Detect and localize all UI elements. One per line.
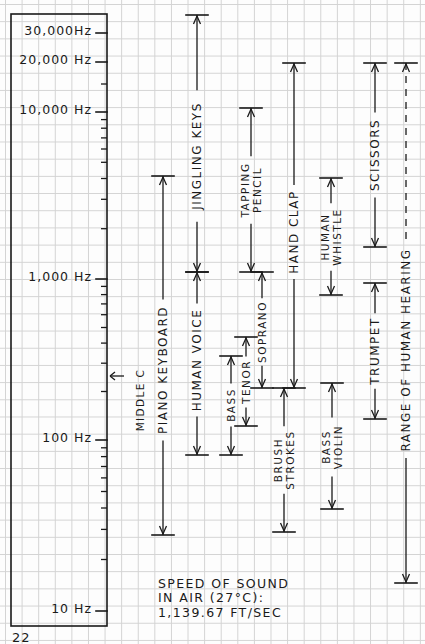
range-human-voice: HUMAN VOICE xyxy=(186,272,208,455)
range-label: STROKES xyxy=(284,430,296,489)
axis-label: 10 Hz xyxy=(51,601,92,616)
range-human-whistle: HUMANWHISTLE xyxy=(319,178,343,295)
axis-labels: 30,000Hz20,000 Hz10,000 Hz1,000 Hz100 Hz… xyxy=(19,23,107,616)
range-label: PIANO KEYBOARD xyxy=(156,306,170,434)
range-hand-clap: HAND CLAP xyxy=(283,63,305,388)
axis-label: 1,000 Hz xyxy=(28,269,92,284)
range-range-of-human-hearing: RANGE OF HUMAN HEARING xyxy=(395,63,417,583)
axis-label: 100 Hz xyxy=(42,430,92,445)
range-label: BASS xyxy=(225,388,237,422)
axis-label: 20,000 Hz xyxy=(19,52,92,67)
range-trumpet: TRUMPET xyxy=(364,283,386,419)
range-label: TRUMPET xyxy=(368,317,382,385)
range-label: HAND CLAP xyxy=(287,190,301,274)
range-label: HUMAN xyxy=(319,213,331,260)
range-label: WHISTLE xyxy=(331,208,343,265)
range-label: SCISSORS xyxy=(368,119,382,191)
range-soprano: SOPRANO xyxy=(251,272,273,388)
range-label: BASS xyxy=(320,430,332,464)
range-piano-keyboard: PIANO KEYBOARD xyxy=(152,176,174,535)
speed-of-sound-note: SPEED OF SOUND IN AIR (27°C): 1,139.67 F… xyxy=(158,576,289,620)
page-number: 22 xyxy=(12,630,31,644)
frequency-axis: 30,000Hz20,000 Hz10,000 Hz1,000 Hz100 Hz… xyxy=(11,14,107,626)
range-label: TAPPING xyxy=(239,162,251,218)
range-label: RANGE OF HUMAN HEARING xyxy=(399,248,413,451)
range-bass-violin: BASSVIOLIN xyxy=(320,383,344,509)
axis-label: 30,000Hz xyxy=(24,23,92,38)
middle-c-marker: MIDDLE C xyxy=(110,369,146,432)
middle-c-label: MIDDLE C xyxy=(134,369,146,432)
axis-minor-ticks xyxy=(101,84,107,560)
range-scissors: SCISSORS xyxy=(364,63,386,247)
frequency-ranges: PIANO KEYBOARDJINGLING KEYSHUMAN VOICETA… xyxy=(152,15,417,583)
note-line-2: IN AIR (27°C): xyxy=(158,590,264,605)
note-line-1: SPEED OF SOUND xyxy=(158,576,289,591)
range-label: BRUSH xyxy=(272,438,284,482)
range-label: TENOR xyxy=(240,360,252,405)
range-tenor: TENOR xyxy=(235,337,257,426)
range-tapping-pencil: TAPPINGPENCIL xyxy=(239,108,263,272)
range-label: HUMAN VOICE xyxy=(190,309,204,412)
range-bass: BASS xyxy=(220,356,242,455)
note-line-3: 1,139.67 FT/SEC xyxy=(158,605,282,620)
range-jingling-keys: JINGLING KEYS xyxy=(186,15,208,272)
range-brush-strokes: BRUSHSTROKES xyxy=(272,388,296,532)
range-label: JINGLING KEYS xyxy=(190,102,204,211)
sound-frequency-diagram: 30,000Hz20,000 Hz10,000 Hz1,000 Hz100 Hz… xyxy=(0,0,425,644)
range-label: VIOLIN xyxy=(332,425,344,469)
range-label: PENCIL xyxy=(251,167,263,213)
range-label: SOPRANO xyxy=(256,301,268,363)
axis-label: 10,000 Hz xyxy=(19,102,92,117)
